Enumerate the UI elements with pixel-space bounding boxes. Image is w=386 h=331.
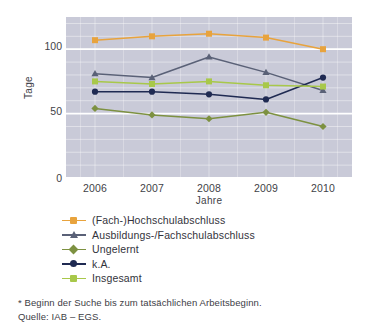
legend-item[interactable]: k.A. [62,257,362,272]
legend-item-label: Insgesamt [92,272,142,284]
source-text: Quelle: IAB – EGS. [18,310,368,324]
chart-figure: 100 50 0 2006 2007 2008 2009 2010 Tage J… [0,0,386,331]
legend-item-label: k.A. [92,258,111,270]
x-axis-title: Jahre [66,195,352,206]
legend-item[interactable]: Ausbildungs-/Fachschulabschluss [62,228,362,243]
y-tick-label-0: 0 [20,172,62,184]
legend-item[interactable]: Insgesamt [62,271,362,286]
legend-marker-triangle-icon [62,228,86,242]
footnote-text: * Beginn der Suche bis zum tatsächlichen… [18,296,368,310]
x-tick-label-2007: 2007 [129,182,175,194]
legend-marker-square-icon [62,213,86,227]
legend-marker-diamond-icon [62,242,86,256]
grid-minor [66,17,352,178]
x-tick-label-2006: 2006 [72,182,118,194]
legend-item-label: Ungelernt [92,243,139,255]
y-axis-title: Tage [23,58,34,118]
plot-area [66,17,352,178]
legend-item-label: (Fach-)Hochschulabschluss [92,214,225,226]
legend-item[interactable]: (Fach-)Hochschulabschluss [62,213,362,228]
chart-legend: (Fach-)HochschulabschlussAusbildungs-/Fa… [62,213,362,286]
plot-canvas [66,17,352,178]
legend-marker-square-icon [62,271,86,285]
x-tick-label-2010: 2010 [300,182,346,194]
legend-item-label: Ausbildungs-/Fachschulabschluss [92,229,255,241]
y-tick-label-100: 100 [20,40,62,52]
legend-item[interactable]: Ungelernt [62,242,362,257]
chart-notes: * Beginn der Suche bis zum tatsächlichen… [18,296,368,324]
x-tick-label-2008: 2008 [186,182,232,194]
legend-marker-circle-icon [62,257,86,271]
x-tick-label-2009: 2009 [243,182,289,194]
